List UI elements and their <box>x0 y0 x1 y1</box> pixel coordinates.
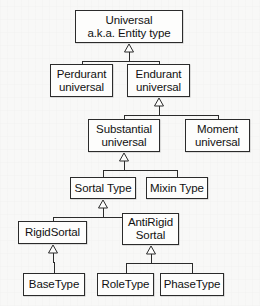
node-sortal-type[interactable]: Sortal Type <box>70 177 136 199</box>
node-sortal-type-line-1: Sortal Type <box>75 182 132 195</box>
node-base-type-line-1: BaseType <box>29 278 79 291</box>
class-hierarchy-diagram: Universal a.k.a. Entity type Perdurant u… <box>0 0 260 306</box>
node-moment-universal-line-1: Moment <box>197 123 238 136</box>
node-role-type-line-1: RoleType <box>102 278 150 291</box>
node-substantial-universal[interactable]: Substantial universal <box>88 119 160 152</box>
node-mixin-type-line-1: Mixin Type <box>150 182 204 195</box>
node-base-type[interactable]: BaseType <box>23 273 85 296</box>
node-substantial-universal-line-1: Substantial <box>96 123 152 136</box>
node-antirigid-sortal-line-1: AntiRigid <box>128 216 173 229</box>
generalization-edge-layer <box>0 0 260 306</box>
node-universal-line-1: Universal <box>105 14 152 27</box>
node-perdurant-universal[interactable]: Perdurant universal <box>50 64 113 97</box>
node-moment-universal[interactable]: Moment universal <box>185 119 250 152</box>
node-rigid-sortal[interactable]: RigidSortal <box>18 221 87 244</box>
node-mixin-type[interactable]: Mixin Type <box>146 177 208 199</box>
node-universal[interactable]: Universal a.k.a. Entity type <box>75 10 183 43</box>
node-endurant-universal-line-2: universal <box>136 81 181 94</box>
node-phase-type[interactable]: PhaseType <box>160 273 224 296</box>
node-role-type[interactable]: RoleType <box>97 273 154 296</box>
node-perdurant-universal-line-1: Perdurant <box>57 68 107 81</box>
node-rigid-sortal-line-1: RigidSortal <box>25 226 80 239</box>
node-antirigid-sortal-line-2: Sortal <box>136 229 165 242</box>
node-perdurant-universal-line-2: universal <box>59 81 104 94</box>
node-endurant-universal-line-1: Endurant <box>136 68 182 81</box>
node-antirigid-sortal[interactable]: AntiRigid Sortal <box>122 213 179 245</box>
node-universal-line-2: a.k.a. Entity type <box>87 27 170 40</box>
node-moment-universal-line-2: universal <box>195 136 240 149</box>
node-substantial-universal-line-2: universal <box>101 136 146 149</box>
node-endurant-universal[interactable]: Endurant universal <box>127 64 190 97</box>
node-phase-type-line-1: PhaseType <box>164 278 221 291</box>
